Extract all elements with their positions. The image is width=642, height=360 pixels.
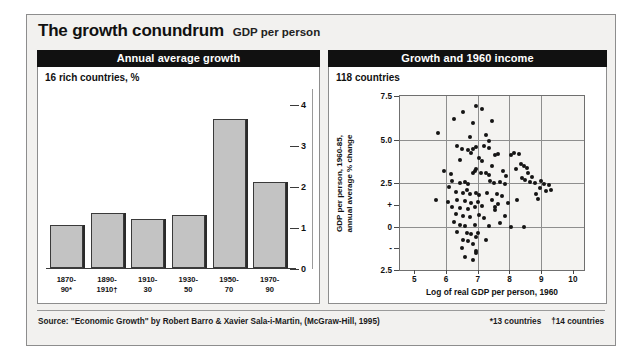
bar-rect <box>50 225 83 268</box>
scatter-point <box>450 179 454 183</box>
scatter-point <box>454 190 458 194</box>
scatter-point <box>487 146 491 150</box>
scatter-y-tick <box>394 227 399 228</box>
scatter-point <box>468 135 472 139</box>
panel-annual-average-growth: Annual average growth 16 rich countries,… <box>37 50 320 304</box>
scatter-point <box>474 104 478 108</box>
scatter-gridline-horizontal <box>400 227 584 228</box>
scatter-y-tick-label: - <box>389 244 392 253</box>
footnotes: *13 countries†14 countries <box>480 317 604 326</box>
bar-y-tick-label: 3 <box>301 141 306 151</box>
scatter-point <box>480 204 484 208</box>
scatter-gridline-vertical <box>509 96 510 270</box>
bar-y-tick-label: 0 <box>301 264 306 274</box>
bar-chart-axis-line <box>312 89 313 269</box>
scatter-point <box>452 220 456 224</box>
bar-y-tick <box>290 228 299 229</box>
scatter-x-tick-label: 8 <box>507 275 512 284</box>
bar-y-tick-label: 4 <box>301 100 306 110</box>
scatter-point <box>473 223 477 227</box>
scatter-x-tick <box>414 270 415 274</box>
scatter-point <box>517 152 521 156</box>
scatter-point <box>496 202 500 206</box>
scatter-point <box>480 107 484 111</box>
scatter-point <box>463 224 467 228</box>
scatter-y-tick-label: 7.5 <box>381 92 392 101</box>
scatter-point <box>468 192 472 196</box>
title-bar: The growth conundrumGDP per person <box>38 21 320 45</box>
scatter-point <box>492 181 496 185</box>
scatter-point <box>455 230 459 234</box>
panel-left-header: Annual average growth <box>37 50 320 67</box>
scatter-y-axis-label-line: GDP per person, 1960-85, <box>336 134 346 232</box>
scatter-gridline-vertical <box>478 96 479 270</box>
scatter-point <box>463 199 467 203</box>
scatter-point <box>485 191 489 195</box>
scatter-point <box>479 171 483 175</box>
page-subtitle: GDP per person <box>233 26 320 38</box>
scatter-y-axis-label-line: annual average % change <box>345 134 355 232</box>
scatter-point <box>466 207 470 211</box>
scatter-point <box>542 182 546 186</box>
scatter-point <box>530 175 534 179</box>
scatter-point <box>549 188 553 192</box>
scatter-point <box>461 110 465 114</box>
scatter-point <box>447 185 451 189</box>
scatter-point <box>434 198 438 202</box>
scatter-point <box>533 181 537 185</box>
scatter-point <box>474 235 478 239</box>
scatter-point <box>469 232 473 236</box>
scatter-point <box>474 167 478 171</box>
scatter-point <box>496 152 500 156</box>
scatter-point <box>455 144 459 148</box>
scatter-point <box>455 198 459 202</box>
scatter-point <box>469 201 473 205</box>
scatter-point <box>473 205 477 209</box>
scatter-x-tick <box>541 270 542 274</box>
scatter-point <box>477 193 481 197</box>
scatter-point <box>490 164 494 168</box>
bar-y-tick <box>290 269 299 270</box>
scatter-point <box>487 224 491 228</box>
scatter-x-tick <box>509 270 510 274</box>
scatter-y-axis-label: GDP per person, 1960-85,annual average %… <box>335 95 355 271</box>
scatter-point <box>522 225 526 229</box>
scatter-point <box>480 159 484 163</box>
scatter-y-tick-label: 5.0 <box>381 135 392 144</box>
scatter-point <box>458 158 462 162</box>
scatter-point <box>503 182 507 186</box>
scatter-y-tick <box>394 183 399 184</box>
scatter-point <box>458 223 462 227</box>
scatter-point <box>466 182 470 186</box>
scatter-point <box>460 246 464 250</box>
scatter-point <box>458 206 462 210</box>
scatter-point <box>523 178 527 182</box>
bar-y-tick <box>290 105 299 106</box>
bar-y-tick <box>290 146 299 147</box>
scatter-point <box>460 147 464 151</box>
scatter-point <box>471 121 475 125</box>
scatter-point <box>482 216 486 220</box>
scatter-y-tick-label: 2.5 <box>381 266 392 275</box>
scatter-x-tick-label: 6 <box>444 275 449 284</box>
bar-x-label: 1970-90 <box>241 275 299 294</box>
scatter-point <box>509 225 513 229</box>
scatter-point <box>498 221 502 225</box>
scatter-point <box>469 151 473 155</box>
bar-chart-plot-area: 1870-90*1890-1910†1910-301930-501950-701… <box>46 93 290 269</box>
bar-rect <box>253 182 286 268</box>
scatter-x-tick-label: 7 <box>475 275 480 284</box>
panel-left-note: 16 rich countries, % <box>45 72 139 83</box>
scatter-y-tick-label: + <box>387 200 392 209</box>
scatter-point <box>525 166 529 170</box>
scatter-point <box>498 180 502 184</box>
bar-y-tick <box>290 187 299 188</box>
bar-rect <box>172 215 205 268</box>
scatter-point <box>538 186 542 190</box>
scatter-point <box>506 201 510 205</box>
scatter-point <box>504 174 508 178</box>
scatter-y-tick <box>394 96 399 97</box>
scatter-point <box>536 197 540 201</box>
scatter-point <box>461 238 465 242</box>
scatter-point <box>501 169 505 173</box>
